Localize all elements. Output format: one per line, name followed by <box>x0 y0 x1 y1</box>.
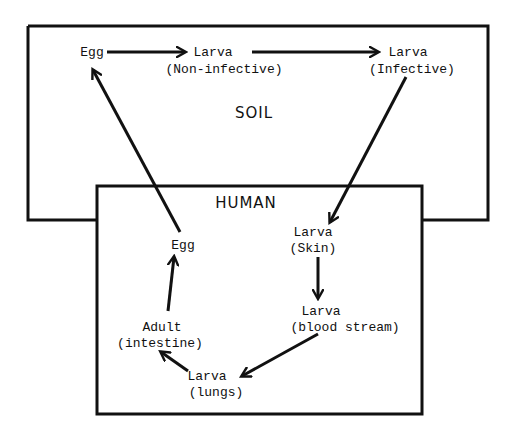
soil-region-label: SOIL <box>235 104 273 122</box>
arrow-lungs-to-adult <box>161 352 188 371</box>
arrow-adult-to-egg <box>168 257 174 311</box>
arrow-blood-to-lungs <box>242 334 318 376</box>
node-larva-blood-subtitle: (blood stream) <box>290 320 399 335</box>
node-larva-noninfective-subtitle: (Non-infective) <box>165 62 282 77</box>
node-larva-noninfective-title: Larva <box>193 45 232 60</box>
arrow-human-egg-to-soil-egg <box>93 70 180 232</box>
node-larva-infective-subtitle: (Infective) <box>369 62 455 77</box>
human-region-label: HUMAN <box>215 194 277 212</box>
node-soil-egg: Egg <box>80 45 103 60</box>
node-adult-subtitle: (intestine) <box>117 336 203 351</box>
node-larva-lungs-subtitle: (lungs) <box>189 385 244 400</box>
node-adult-title: Adult <box>142 320 181 335</box>
node-larva-skin-subtitle: (Skin) <box>290 241 337 256</box>
node-human-egg: Egg <box>171 238 194 253</box>
human-region-box <box>97 186 422 414</box>
node-larva-infective-title: Larva <box>388 45 427 60</box>
arrow-infective-to-skin <box>330 77 406 222</box>
node-larva-blood-title: Larva <box>301 304 340 319</box>
life-cycle-diagram: SOIL HUMAN Egg Larva (Non-infective) Lar… <box>0 0 519 438</box>
node-larva-skin-title: Larva <box>293 225 332 240</box>
node-larva-lungs-title: Larva <box>187 369 226 384</box>
